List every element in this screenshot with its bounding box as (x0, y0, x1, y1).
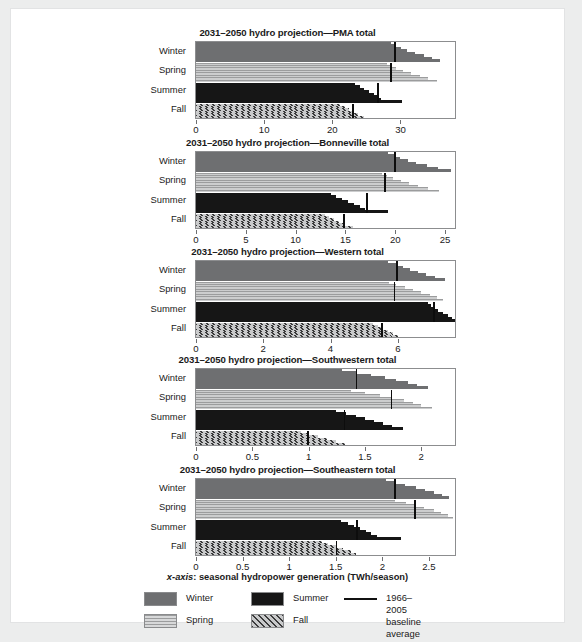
season-band-spring (196, 389, 455, 410)
legend-label-fall: Fall (293, 614, 308, 626)
legend-swatch-summer-icon (251, 592, 284, 606)
legend-label-summer: Summer (293, 592, 328, 604)
x-tick-label: 0 (193, 124, 198, 135)
x-axis-caption: x-axis: seasonal hydropower generation (… (11, 572, 564, 582)
figure-page: 2031–2050 hydro projection—PMA totalWint… (11, 9, 564, 622)
x-tick-label: 0 (193, 451, 198, 462)
season-band-summer (196, 519, 455, 540)
season-label-summer: Summer (151, 411, 186, 422)
season-band-winter (196, 152, 455, 172)
season-label-winter: Winter (159, 482, 186, 493)
x-tick-label: 2 (419, 451, 424, 462)
x-tick-label: 2 (261, 343, 266, 354)
season-band-summer (196, 192, 455, 213)
x-tick-label: 2 (380, 561, 385, 572)
x-tick-label: 25 (440, 234, 451, 245)
season-band-summer (196, 82, 455, 103)
legend-label-baseline: 1966–2005 baseline average (386, 592, 421, 640)
baseline-marker-fall (352, 104, 354, 120)
x-tick-label: 0 (193, 561, 198, 572)
baseline-marker-spring (391, 390, 393, 410)
season-band-spring (196, 499, 455, 520)
projection-bar (196, 335, 398, 338)
chart-panel: 2031–2050 hydro projection—Western total… (11, 246, 564, 358)
season-label-winter: Winter (159, 264, 186, 275)
baseline-marker-spring (394, 282, 396, 302)
projection-bar (196, 228, 361, 229)
legend-label-winter: Winter (186, 592, 213, 604)
baseline-marker-fall (307, 431, 309, 447)
season-label-fall: Fall (171, 430, 186, 441)
x-tick-label: 5 (243, 234, 248, 245)
baseline-marker-summer (356, 520, 358, 540)
season-label-spring: Spring (159, 391, 186, 402)
plot-area (195, 478, 456, 556)
baseline-marker-winter (356, 369, 358, 389)
baseline-marker-summer (366, 193, 368, 213)
x-tick-label: 30 (395, 124, 406, 135)
x-tick-label: 20 (327, 124, 338, 135)
season-band-fall (196, 430, 455, 447)
projection-bar (196, 445, 351, 446)
baseline-marker-spring (384, 173, 386, 193)
season-label-spring: Spring (159, 174, 186, 185)
season-label-summer: Summer (151, 84, 186, 95)
season-band-winter (196, 369, 455, 389)
legend-label-spring: Spring (186, 614, 213, 626)
x-tick-label: 0.5 (236, 561, 249, 572)
season-label-winter: Winter (159, 372, 186, 383)
x-tick-label: 4 (328, 343, 333, 354)
legend-swatch-fall-icon (251, 614, 284, 628)
x-tick-label: 0 (193, 343, 198, 354)
baseline-marker-summer (377, 83, 379, 103)
legend-swatch-winter-icon (144, 592, 177, 606)
season-band-fall (196, 103, 455, 120)
season-band-fall (196, 322, 455, 339)
baseline-marker-summer (433, 302, 435, 322)
season-band-winter (196, 261, 455, 281)
x-tick-label: 20 (390, 234, 401, 245)
season-label-fall: Fall (171, 103, 186, 114)
projection-bar (196, 443, 345, 446)
x-axis-caption-prefix: x-axis (167, 572, 193, 582)
season-label-fall: Fall (171, 540, 186, 551)
baseline-marker-winter (394, 42, 396, 62)
x-tick-label: 1 (306, 451, 311, 462)
baseline-marker-spring (390, 63, 392, 83)
projection-bar (196, 553, 356, 556)
baseline-marker-summer (344, 410, 346, 430)
season-band-spring (196, 172, 455, 193)
x-tick-label: 15 (340, 234, 351, 245)
legend-swatch-spring-icon (144, 614, 177, 628)
plot-area (195, 260, 456, 338)
chart-title: 2031–2050 hydro projection—Bonneville to… (11, 137, 564, 148)
x-tick-label: 2.5 (422, 561, 435, 572)
chart-title: 2031–2050 hydro projection—Southeastern … (11, 464, 564, 475)
chart-panel: 2031–2050 hydro projection—Southeastern … (11, 464, 564, 576)
baseline-marker-winter (394, 479, 396, 499)
chart-panel: 2031–2050 hydro projection—Southwestern … (11, 354, 564, 466)
season-band-spring (196, 281, 455, 302)
baseline-marker-fall (381, 323, 383, 339)
projection-bar (196, 337, 401, 338)
season-label-summer: Summer (151, 194, 186, 205)
legend-swatch-baseline-icon (344, 592, 377, 606)
x-tick-label: 1.5 (329, 561, 342, 572)
x-axis-caption-rest: : seasonal hydropower generation (TWh/se… (193, 572, 408, 582)
season-band-summer (196, 301, 455, 322)
season-label-spring: Spring (159, 283, 186, 294)
season-label-winter: Winter (159, 155, 186, 166)
season-band-fall (196, 540, 455, 557)
projection-bar (196, 116, 364, 119)
season-label-summer: Summer (151, 303, 186, 314)
plot-area (195, 151, 456, 229)
x-tick-label: 0 (193, 234, 198, 245)
chart-title: 2031–2050 hydro projection—Southwestern … (11, 354, 564, 365)
hydro-projection-figure: 2031–2050 hydro projection—PMA totalWint… (11, 9, 564, 622)
x-tick-label: 10 (259, 124, 270, 135)
x-tick-label: 0.5 (246, 451, 259, 462)
x-tick-label: 1 (286, 561, 291, 572)
season-band-fall (196, 213, 455, 230)
season-label-spring: Spring (159, 501, 186, 512)
baseline-marker-fall (336, 541, 338, 557)
